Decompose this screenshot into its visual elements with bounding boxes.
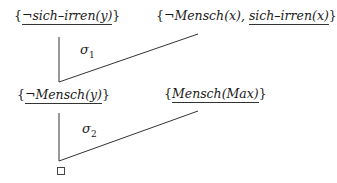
sigma-symbol: σ — [80, 42, 89, 57]
literal-not-sich-irren-y: ¬sich–irren(y) — [22, 8, 112, 25]
substitution-sigma-1: σ1 — [80, 42, 95, 60]
sigma-index: 2 — [91, 129, 97, 139]
clause-not-sich-irren-y: {¬sich–irren(y)} — [14, 8, 120, 24]
edge-step2-right — [59, 111, 198, 161]
brace-close: } — [112, 8, 120, 23]
clause-not-mensch-y: {¬Mensch(y)} — [17, 87, 110, 103]
sigma-symbol: σ — [82, 121, 91, 136]
brace-close: } — [259, 86, 267, 101]
brace-close: } — [329, 8, 337, 23]
brace-open: { — [14, 8, 22, 23]
clause-mensch-max: {Mensch(Max)} — [164, 86, 267, 102]
brace-close: } — [102, 87, 110, 102]
literal-not-mensch-y: ¬Mensch(y) — [25, 87, 102, 104]
literal-not-mensch-x: ¬Mensch(x), — [164, 8, 245, 23]
literal-sich-irren-x: sich–irren(x) — [249, 8, 329, 25]
brace-open: { — [156, 8, 164, 23]
clause-not-mensch-x-sich-irren-x: {¬Mensch(x), sich–irren(x)} — [156, 8, 337, 24]
empty-clause-box — [58, 168, 65, 175]
sigma-index: 1 — [89, 50, 95, 60]
brace-open: { — [164, 86, 172, 101]
literal-mensch-max: Mensch(Max) — [172, 86, 259, 103]
brace-open: { — [17, 87, 25, 102]
substitution-sigma-2: σ2 — [82, 121, 97, 139]
